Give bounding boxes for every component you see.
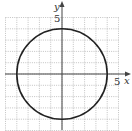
circle-graph: y 5 5 x bbox=[0, 0, 132, 131]
y-axis-label: y bbox=[53, 1, 60, 12]
x-tick-label: 5 bbox=[114, 76, 120, 87]
x-axis-label: x bbox=[124, 75, 130, 86]
y-axis-arrow-icon bbox=[60, 1, 65, 7]
y-tick-label: 5 bbox=[54, 13, 60, 24]
